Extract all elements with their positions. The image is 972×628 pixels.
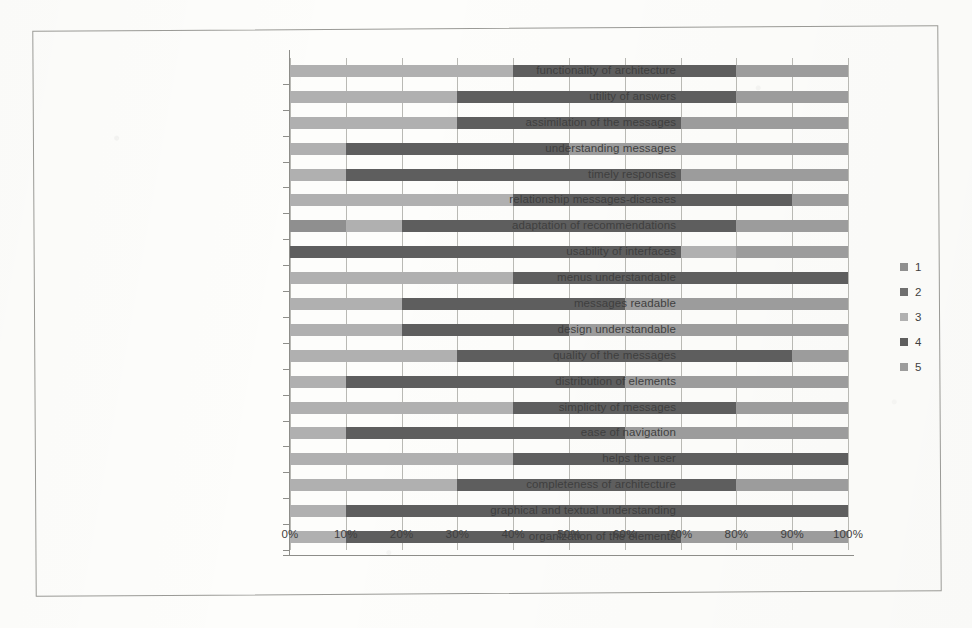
bar-segment-series-1 [290, 220, 346, 232]
bar-segment-series-5 [736, 220, 848, 232]
scan-ghost-text [54, 318, 57, 329]
y-tick-mark [283, 395, 290, 396]
category-label: relationship messages-diseases [436, 193, 676, 205]
y-tick-mark [283, 550, 290, 551]
y-tick-mark [283, 187, 290, 188]
bar-segment-series-5 [736, 402, 848, 414]
category-label: assimilation of the messages [436, 116, 676, 128]
category-label: helps the user [436, 452, 676, 464]
y-tick-mark [283, 421, 290, 422]
legend-swatch-icon-3 [900, 313, 908, 321]
category-label: adaptation of recommendations [436, 219, 676, 231]
y-tick-mark [283, 84, 290, 85]
category-label: usability of interfaces [436, 245, 676, 257]
legend-label: 1 [915, 261, 921, 273]
y-tick-mark [283, 369, 290, 370]
legend-item-2: 2 [900, 279, 960, 304]
x-tick-label: 100% [833, 528, 863, 540]
bar-segment-series-5 [681, 531, 848, 543]
y-tick-mark [283, 498, 290, 499]
bar-segment-series-3 [290, 324, 402, 336]
category-label: ease of navigation [436, 426, 676, 438]
category-label: utility of answers [436, 90, 676, 102]
x-tick-label: 80% [725, 528, 749, 540]
chart-area: 0%10%20%30%40%50%60%70%80%90%100% functi… [34, 28, 940, 594]
bar-segment-series-5 [736, 246, 848, 258]
category-label: functionality of architecture [436, 64, 676, 76]
legend-swatch-icon-5 [900, 363, 908, 371]
bar-segment-series-5 [736, 91, 848, 103]
x-tick-label: 20% [390, 528, 414, 540]
y-tick-mark [283, 343, 290, 344]
bar-segment-series-3 [346, 220, 402, 232]
y-tick-mark [283, 524, 290, 525]
x-tick-label: 0% [281, 528, 298, 540]
category-label: organization of the elements [436, 530, 676, 542]
legend-label: 2 [915, 286, 921, 298]
legend-label: 5 [915, 361, 921, 373]
y-tick-mark [283, 317, 290, 318]
y-tick-mark [283, 110, 290, 111]
x-tick-label: 10% [334, 528, 358, 540]
y-tick-mark [283, 136, 290, 137]
bar-segment-series-3 [290, 427, 346, 439]
legend-item-4: 4 [900, 329, 960, 354]
bar-segment-series-3 [290, 376, 346, 388]
category-label: messages readable [436, 297, 676, 309]
category-label: simplicity of messages [436, 401, 676, 413]
bar-segment-series-5 [736, 65, 848, 77]
category-label: quality of the messages [436, 349, 676, 361]
legend-swatch-icon-2 [900, 288, 908, 296]
bar-segment-series-5 [792, 194, 848, 206]
y-tick-mark [283, 162, 290, 163]
bar-segment-series-5 [792, 350, 848, 362]
bar-segment-series-3 [290, 117, 457, 129]
y-tick-mark [283, 213, 290, 214]
y-tick-mark [283, 239, 290, 240]
bar-segment-series-3 [290, 505, 346, 517]
bar-segment-series-3 [290, 350, 457, 362]
category-label: understanding messages [436, 142, 676, 154]
y-tick-mark [283, 446, 290, 447]
bar-segment-series-5 [736, 479, 848, 491]
gridline-100 [848, 58, 849, 550]
category-label: graphical and textual understanding [436, 504, 676, 516]
legend-swatch-icon-4 [900, 338, 908, 346]
chart-legend: 12345 [900, 254, 960, 379]
y-tick-mark [283, 291, 290, 292]
x-axis-line [283, 555, 854, 556]
bar-segment-series-3 [290, 91, 457, 103]
legend-label: 4 [915, 336, 921, 348]
category-label: distribution of elements [436, 375, 676, 387]
category-label: design understandable [436, 323, 676, 335]
y-tick-mark [283, 472, 290, 473]
category-label: timely responses [436, 168, 676, 180]
legend-item-3: 3 [900, 304, 960, 329]
y-tick-mark [283, 265, 290, 266]
bar-segment-series-3 [290, 479, 457, 491]
bar-segment-series-5 [681, 117, 848, 129]
bar-segment-series-3 [290, 143, 346, 155]
bar-segment-series-5 [681, 169, 848, 181]
x-tick-label: 90% [780, 528, 804, 540]
category-label: menus understandable [436, 271, 676, 283]
bar-segment-series-3 [290, 298, 402, 310]
category-label: completeness of architecture [436, 478, 676, 490]
legend-swatch-icon-1 [900, 263, 908, 271]
bar-segment-series-3 [681, 246, 737, 258]
bar-segment-series-3 [290, 169, 346, 181]
legend-item-1: 1 [900, 254, 960, 279]
legend-item-5: 5 [900, 354, 960, 379]
legend-label: 3 [915, 311, 921, 323]
